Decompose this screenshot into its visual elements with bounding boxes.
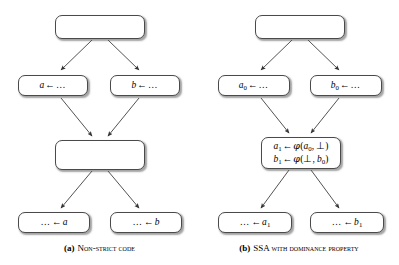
panel-ssa-dominance: a0←… b0←… a1←φ(a0, ⊥) b1←φ(⊥, b0) …←a1 …… <box>199 0 399 265</box>
edge-entry-to-assign-a0 <box>261 40 292 70</box>
use-a-block[interactable]: …←a <box>18 212 90 233</box>
edge-entry-to-assign-a <box>61 40 92 70</box>
panel-non-strict-code: a←… b←… …←a …←b (a)Non-strict code <box>0 0 199 265</box>
caption-a-tag: (a) <box>64 243 75 253</box>
edge-assign-b-to-merge <box>108 98 139 136</box>
caption-b-text: SSA with dominance property <box>253 243 358 253</box>
assign-b-block[interactable]: b←… <box>110 75 180 96</box>
assign-a0-block-label: a0←… <box>239 80 270 92</box>
assign-a-block[interactable]: a←… <box>18 75 88 96</box>
edge-assign-b0-to-phi <box>311 98 339 133</box>
edge-merge-to-use-b <box>108 171 139 208</box>
phi-block[interactable]: a1←φ(a0, ⊥) b1←φ(⊥, b0) <box>261 137 341 169</box>
assign-a-block-label: a←… <box>39 80 66 92</box>
edge-entry-to-assign-b0 <box>308 40 339 70</box>
use-a-block-label: …←a <box>40 217 67 229</box>
use-b1-block-label: …←b1 <box>332 217 363 229</box>
edge-phi-to-use-b1 <box>311 170 339 208</box>
use-b1-block[interactable]: …←b1 <box>310 212 384 233</box>
entry-block[interactable] <box>55 15 145 39</box>
edge-assign-a-to-merge <box>61 98 92 136</box>
edge-merge-to-use-a <box>61 171 92 208</box>
assign-b0-block[interactable]: b0←… <box>310 75 382 96</box>
merge-block[interactable] <box>55 140 145 170</box>
use-b-block[interactable]: …←b <box>110 212 182 233</box>
assign-b-block-label: b←… <box>131 80 158 92</box>
assign-b0-block-label: b0←… <box>331 80 362 92</box>
figure-ssa-comparison: a←… b←… …←a …←b (a)Non-strict code <box>0 0 399 265</box>
caption-b-tag: (b) <box>239 243 250 253</box>
edge-entry-to-assign-b <box>108 40 139 70</box>
phi-block-line-b: b1←φ(⊥, b0) <box>273 153 328 166</box>
edge-assign-a0-to-phi <box>261 98 289 133</box>
use-b-block-label: …←b <box>132 217 159 229</box>
edge-phi-to-use-a1 <box>261 170 289 208</box>
entry-block[interactable] <box>255 15 345 39</box>
phi-block-line-a: a1←φ(a0, ⊥) <box>273 140 328 153</box>
use-a1-block-label: …←a1 <box>240 217 271 229</box>
use-a1-block[interactable]: …←a1 <box>218 212 292 233</box>
caption-panel-a: (a)Non-strict code <box>0 243 199 254</box>
caption-a-text: Non-strict code <box>78 243 135 253</box>
caption-panel-b: (b)SSA with dominance property <box>199 243 399 254</box>
assign-a0-block[interactable]: a0←… <box>218 75 290 96</box>
